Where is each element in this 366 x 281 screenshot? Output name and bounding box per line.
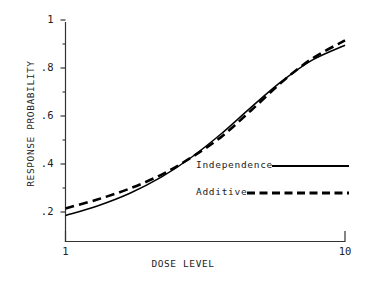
x-axis-label: DOSE LEVEL: [0, 258, 366, 269]
y-tick-label: .6: [28, 109, 54, 121]
y-axis-ticks: [61, 20, 66, 212]
x-tick-label: 10: [330, 245, 360, 257]
legend-sample-lines: [247, 166, 349, 193]
y-tick-label: .8: [28, 61, 54, 73]
y-tick-label: .4: [28, 157, 54, 169]
y-axis-label: RESPONSE PROBABILITY: [25, 24, 36, 224]
series-line-additive: [66, 40, 346, 208]
y-tick-label: 1: [28, 13, 54, 25]
x-axis-ticks: [66, 231, 346, 242]
legend-label-independence: Independence: [196, 159, 273, 170]
x-tick-label: 1: [51, 245, 81, 257]
axis-lines: [66, 22, 346, 242]
y-tick-label: .2: [28, 205, 54, 217]
chart-figure: RESPONSE PROBABILITY DOSE LEVEL 1.8.6.4.…: [0, 0, 366, 281]
legend-label-additive: Additive: [196, 186, 247, 197]
chart-plot-area: [0, 0, 366, 281]
